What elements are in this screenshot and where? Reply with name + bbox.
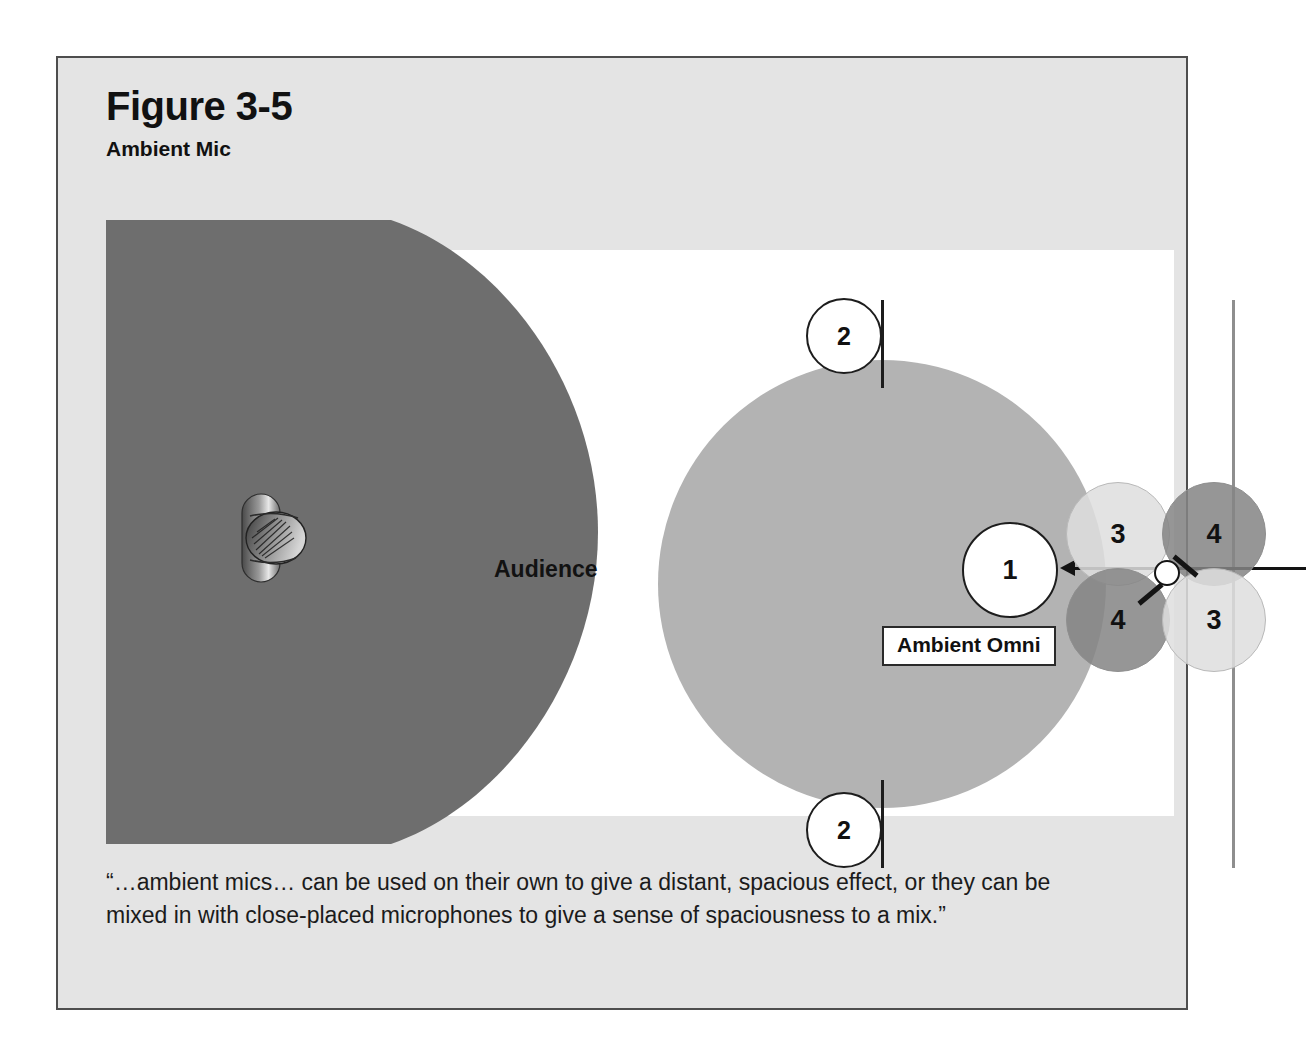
marker-2-top-label: 2: [837, 322, 851, 351]
marker-2-bottom-label: 2: [837, 816, 851, 845]
lobe-bottom-right-label: 3: [1206, 605, 1221, 636]
figure-frame: Figure 3-5 Ambient Mic: [56, 56, 1188, 1010]
ambient-microphone-icon: 3 4 4 3: [1066, 482, 1274, 672]
lobe-top-right-label: 4: [1206, 519, 1221, 550]
lobe-bottom-right: 3: [1162, 568, 1266, 672]
lobe-bottom-left: 4: [1066, 568, 1170, 672]
diagram-canvas: Audience 2 2 1 Ambient Omni 3: [106, 220, 1124, 844]
figure-caption: “…ambient mics… can be used on their own…: [106, 866, 1106, 931]
stage-edge-tick-top: [881, 300, 884, 388]
marker-2-bottom: 2: [806, 792, 882, 868]
audience-label: Audience: [494, 556, 598, 583]
figure-title: Figure 3-5: [106, 86, 292, 126]
ambient-omni-callout: Ambient Omni: [882, 626, 1056, 666]
figure-subtitle: Ambient Mic: [106, 138, 231, 159]
marker-1: 1: [962, 522, 1058, 618]
mic-capsule: [1154, 560, 1180, 586]
marker-1-label: 1: [1002, 555, 1017, 586]
lobe-top-left-label: 3: [1110, 519, 1125, 550]
ambient-omni-label: Ambient Omni: [897, 633, 1041, 656]
lobe-bottom-left-label: 4: [1110, 605, 1125, 636]
performer-source-icon: [228, 488, 320, 588]
marker-2-top: 2: [806, 298, 882, 374]
